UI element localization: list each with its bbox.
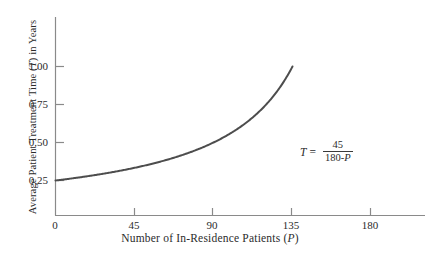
x-tick-label-45: 45	[114, 219, 154, 231]
x-tick-label-135: 135	[271, 219, 311, 231]
equation-annotation: T = 45 180-P	[300, 139, 353, 165]
x-axis-ticks	[135, 208, 371, 216]
y-axis-title: Average Patient Treatment Time (T) in Ye…	[22, 2, 44, 232]
equation-denominator: 180-P	[323, 152, 353, 164]
equation-fraction: 45 180-P	[323, 139, 353, 165]
data-series-curve	[56, 67, 293, 181]
x-axis-title-tail: )	[295, 232, 299, 244]
x-tick-label-180: 180	[350, 219, 390, 231]
equation-denominator-const: 180-	[325, 152, 344, 163]
y-axis-title-main: Average Patient Treatment Time (	[27, 67, 38, 214]
equation-numerator: 45	[328, 139, 347, 151]
y-axis-title-tail: ) in Years	[27, 20, 38, 61]
equation-operator: =	[309, 146, 316, 158]
x-axis-title-variable: P	[288, 232, 295, 244]
y-axis-title-variable: T	[27, 61, 38, 67]
x-axis-title-main: Number of In-Residence Patients (	[121, 232, 287, 244]
equation-lhs: T	[300, 146, 306, 158]
y-axis-ticks	[56, 67, 65, 181]
equation-denominator-variable: P	[344, 152, 350, 163]
chart-figure: 1.00 0.75 0.50 0.25 0 45 90 135 180 Aver…	[0, 0, 438, 264]
x-axis-title: Number of In-Residence Patients (P)	[55, 232, 365, 244]
x-tick-label-90: 90	[192, 219, 232, 231]
